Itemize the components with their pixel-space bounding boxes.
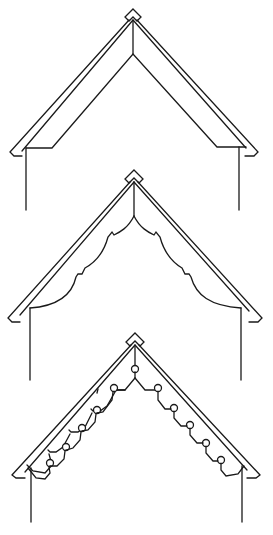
roof-edge-inner-right xyxy=(134,182,249,311)
gable-plain xyxy=(10,9,258,210)
step-links-right xyxy=(158,392,244,476)
roof-edge-outer-right xyxy=(139,345,260,478)
roof-edge-inner-left xyxy=(25,345,135,472)
ridge-cap xyxy=(125,9,141,21)
roof-edge-inner-left xyxy=(20,182,134,315)
gable-drawing xyxy=(0,0,273,535)
roof-edge-outer-right xyxy=(138,182,262,322)
roof-edge-inner-right xyxy=(135,345,247,470)
knob-ornament-left-1 xyxy=(111,385,118,392)
roof-edge-inner-left xyxy=(22,20,133,151)
scallop-trim-right xyxy=(134,216,241,308)
step-links-left xyxy=(28,390,125,479)
roof-edge-inner-right xyxy=(133,20,246,148)
knob-ornament-right-1 xyxy=(155,385,162,392)
knob-ornament-right-5 xyxy=(218,457,225,464)
inner-brace xyxy=(26,54,246,148)
gable-illustration: Three gable end designs with decorative … xyxy=(0,0,273,535)
ridge-cap xyxy=(125,170,143,183)
scallop-trim-left xyxy=(30,216,134,308)
gable-knobbed xyxy=(12,333,260,522)
roof-edge-outer-left xyxy=(10,20,129,156)
roof-edge-outer-right xyxy=(137,20,258,156)
ridge-cap xyxy=(126,333,144,346)
step-trim-right xyxy=(135,378,155,390)
knob-ornament-right-2 xyxy=(171,405,178,412)
knob-ornament-right-3 xyxy=(187,422,194,429)
